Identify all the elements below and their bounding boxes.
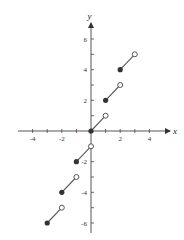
x-tick-label: -4 [30,135,36,143]
y-axis-label: y [87,11,92,21]
x-tick-label: 2 [118,135,122,143]
chart-canvas: -4 -2 2 4 6 4 2 -2 -4 -6 x y [0,0,184,240]
y-tick-label: -6 [81,220,87,228]
y-tick-label: 2 [84,97,88,105]
y-tick-label: -2 [81,158,87,166]
y-tick-label: -4 [81,189,87,197]
x-tick-label: -2 [59,135,65,143]
y-tick-label: 6 [84,36,88,44]
closed-endpoints [45,67,123,226]
y-tick-label: 4 [84,66,88,74]
x-axis-label: x [172,126,177,136]
x-tick-label: 4 [148,135,152,143]
